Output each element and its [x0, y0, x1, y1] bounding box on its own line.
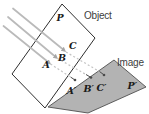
label-c-prime: C′: [97, 82, 108, 93]
projection-solid-a: [71, 77, 75, 80]
projection-diagram: P C B A A′ B′ C′ P′ Object Image: [0, 0, 149, 114]
point-dot-c-prime: [103, 74, 106, 77]
label-p: P: [56, 12, 65, 23]
object-plane-caption: Object: [84, 10, 112, 21]
point-dot-b-prime: [90, 76, 93, 79]
label-a-prime: A′: [66, 85, 77, 96]
projection-solid-b: [86, 75, 91, 78]
image-plane-caption: Image: [117, 57, 144, 68]
label-b: B: [57, 52, 66, 63]
label-b-prime: B′: [83, 83, 95, 94]
object-image-plane-figure: P C B A A′ B′ C′ P′ Object Image: [0, 0, 149, 114]
point-dot-a-prime: [74, 79, 77, 82]
label-p-prime: P′: [127, 80, 138, 91]
label-a: A: [42, 59, 50, 70]
label-c: C: [69, 40, 77, 51]
